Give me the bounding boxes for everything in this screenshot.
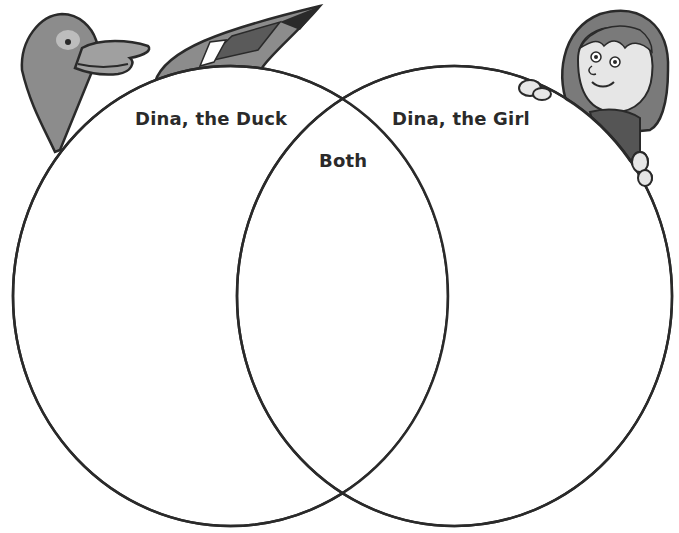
venn-graphic: [0, 0, 679, 533]
left-circle: [13, 66, 448, 526]
intersection-label: Both: [319, 150, 367, 171]
venn-diagram: Dina, the Duck Dina, the Girl Both: [0, 0, 679, 533]
set-label-duck: Dina, the Duck: [135, 108, 287, 129]
set-label-girl: Dina, the Girl: [392, 108, 530, 129]
